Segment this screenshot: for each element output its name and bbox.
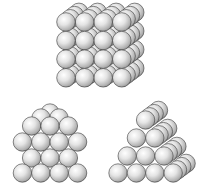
sphere — [41, 117, 59, 135]
sphere — [13, 133, 31, 151]
sphere — [75, 50, 94, 69]
sphere — [68, 133, 86, 151]
sphere — [136, 111, 154, 129]
sphere — [113, 13, 132, 32]
sphere — [13, 164, 31, 182]
sphere — [113, 50, 132, 69]
sphere — [155, 147, 173, 165]
sphere — [75, 31, 94, 50]
sphere — [136, 147, 154, 165]
sphere — [32, 164, 50, 182]
sphere — [127, 129, 145, 147]
sphere — [146, 164, 164, 182]
sphere — [109, 164, 127, 182]
sphere — [118, 147, 136, 165]
sphere — [146, 129, 164, 147]
sphere — [59, 117, 77, 135]
sphere — [94, 50, 113, 69]
triangular-pyramid-stack — [109, 101, 196, 182]
sphere — [50, 133, 68, 151]
sphere — [57, 31, 76, 50]
sphere — [57, 69, 76, 88]
sphere — [94, 31, 113, 50]
sphere-packing-diagram — [0, 0, 209, 189]
cubic-block — [57, 3, 144, 87]
sphere — [127, 164, 145, 182]
sphere — [113, 31, 132, 50]
sphere — [113, 69, 132, 88]
sphere — [94, 13, 113, 32]
sphere — [164, 164, 182, 182]
sphere — [50, 164, 68, 182]
hexagonal-layers-front — [13, 104, 87, 182]
sphere — [32, 133, 50, 151]
sphere — [68, 164, 86, 182]
sphere — [57, 13, 76, 32]
sphere — [75, 13, 94, 32]
sphere — [75, 69, 94, 88]
sphere — [22, 117, 40, 135]
sphere — [94, 69, 113, 88]
sphere — [57, 50, 76, 69]
